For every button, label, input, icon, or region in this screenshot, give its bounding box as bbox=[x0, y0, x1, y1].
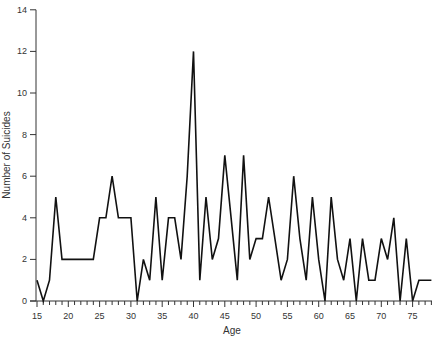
x-tick-label: 70 bbox=[376, 311, 386, 321]
x-tick-label: 20 bbox=[63, 311, 73, 321]
y-tick-label: 12 bbox=[17, 46, 27, 56]
x-tick-label: 45 bbox=[220, 311, 230, 321]
x-axis-title: Age bbox=[223, 325, 241, 336]
y-axis: 02468101214 bbox=[17, 5, 36, 306]
y-tick-label: 2 bbox=[22, 254, 27, 264]
x-tick-label: 15 bbox=[32, 311, 42, 321]
y-axis-title: Number of Suicides bbox=[1, 111, 12, 198]
x-tick-label: 55 bbox=[282, 311, 292, 321]
x-tick-label: 65 bbox=[345, 311, 355, 321]
y-tick-label: 4 bbox=[22, 213, 27, 223]
x-tick-label: 75 bbox=[408, 311, 418, 321]
y-tick-label: 0 bbox=[22, 296, 27, 306]
x-tick-label: 30 bbox=[126, 311, 136, 321]
x-tick-label: 40 bbox=[188, 311, 198, 321]
x-tick-label: 60 bbox=[314, 311, 324, 321]
series-line bbox=[37, 51, 431, 301]
y-tick-label: 6 bbox=[22, 171, 27, 181]
x-tick-label: 25 bbox=[95, 311, 105, 321]
line-chart: 02468101214 15202530354045505560657075 A… bbox=[0, 0, 432, 339]
x-tick-label: 35 bbox=[157, 311, 167, 321]
y-tick-label: 10 bbox=[17, 88, 27, 98]
x-axis: 15202530354045505560657075 bbox=[30, 301, 432, 321]
x-tick-label: 50 bbox=[251, 311, 261, 321]
y-tick-label: 8 bbox=[22, 130, 27, 140]
y-tick-label: 14 bbox=[17, 5, 27, 15]
